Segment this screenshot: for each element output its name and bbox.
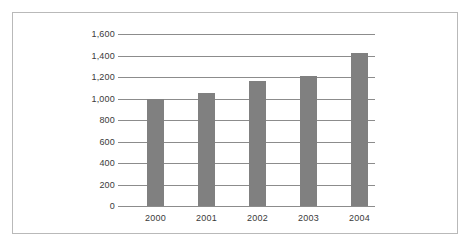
y-axis-label-1400: 1,400 [91,51,115,61]
y-tick-mark-0 [118,206,125,207]
bar-2002 [249,81,266,206]
plot-area: 1,600 1,400 1,200 1,000 800 600 400 200 [125,34,375,206]
y-axis-label-600: 600 [99,137,115,147]
bar-2004 [351,53,368,206]
y-tick-mark-1200 [118,77,125,78]
y-tick-mark-600 [118,142,125,143]
y-axis-label-1600: 1,600 [91,29,115,39]
gridline-1400: 1,400 [125,56,375,57]
y-axis-label-1200: 1,200 [91,72,115,82]
y-tick-mark-1000 [118,99,125,100]
bar-2000 [147,99,164,207]
gridline-1600: 1,600 [125,34,375,35]
chart-figure: 1,600 1,400 1,200 1,000 800 600 400 200 [12,12,458,234]
gridline-1200: 1,200 [125,77,375,78]
y-axis-label-400: 400 [99,158,115,168]
x-axis-label-2003: 2003 [298,213,319,223]
y-axis-label-800: 800 [99,115,115,125]
y-tick-mark-400 [118,163,125,164]
x-axis-label-2002: 2002 [247,213,268,223]
y-axis-label-200: 200 [99,180,115,190]
y-tick-mark-200 [118,185,125,186]
gridline-0-baseline: 0 [125,206,375,207]
y-tick-mark-800 [118,120,125,121]
y-axis-label-1000: 1,000 [91,94,115,104]
x-axis-label-2004: 2004 [349,213,370,223]
x-axis-label-2000: 2000 [145,213,166,223]
y-tick-mark-1600 [118,34,125,35]
y-tick-mark-1400 [118,56,125,57]
bar-2003 [300,76,317,206]
x-axis-label-2001: 2001 [196,213,217,223]
bar-2001 [198,93,215,206]
y-axis-label-0: 0 [110,201,115,211]
